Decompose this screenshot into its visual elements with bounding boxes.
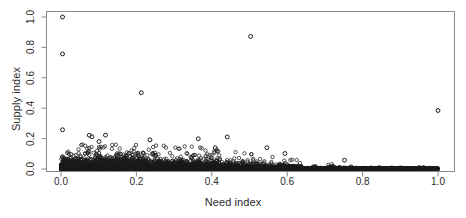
data-point xyxy=(147,148,150,151)
data-point xyxy=(436,109,440,113)
data-point xyxy=(61,52,65,56)
data-point xyxy=(225,135,229,139)
x-tick-label: 0.0 xyxy=(54,176,68,187)
data-point xyxy=(343,158,347,162)
y-tick-label: 0.0 xyxy=(25,162,36,176)
axes-layer xyxy=(42,12,455,177)
data-point xyxy=(77,148,80,151)
x-tick-label: 0.4 xyxy=(205,176,219,187)
data-point xyxy=(204,149,207,152)
data-point xyxy=(190,145,193,148)
data-point xyxy=(249,35,253,39)
x-tick-label: 1.0 xyxy=(431,176,445,187)
data-points-layer xyxy=(59,15,440,171)
y-tick-label: 1.0 xyxy=(25,10,36,24)
y-tick-label: 0.8 xyxy=(25,40,36,54)
y-tick-label: 0.4 xyxy=(25,101,36,115)
x-tick-label: 0.6 xyxy=(280,176,294,187)
data-point xyxy=(104,133,108,137)
data-point xyxy=(183,145,186,148)
data-point xyxy=(118,147,121,150)
x-tick-label: 0.8 xyxy=(356,176,370,187)
data-point xyxy=(234,150,237,153)
data-point xyxy=(148,138,152,142)
data-point xyxy=(295,158,298,161)
data-point xyxy=(61,15,65,19)
x-tick-label: 0.2 xyxy=(129,176,143,187)
data-point xyxy=(139,91,143,95)
data-point xyxy=(77,152,80,155)
data-point xyxy=(217,154,220,157)
y-axis-ticks xyxy=(42,17,47,169)
data-point xyxy=(283,152,287,156)
data-point xyxy=(61,128,65,132)
data-point xyxy=(133,146,136,149)
data-point xyxy=(114,143,117,146)
data-point xyxy=(168,151,171,154)
data-point xyxy=(258,157,261,160)
plot-canvas xyxy=(0,0,466,218)
data-point xyxy=(196,137,200,141)
plot-border xyxy=(47,12,455,172)
y-tick-label: 0.2 xyxy=(25,132,36,146)
data-point xyxy=(265,146,269,150)
x-axis-ticks xyxy=(61,172,438,177)
data-point xyxy=(237,156,240,159)
data-point xyxy=(110,147,113,150)
y-axis-label: Supply index xyxy=(10,49,22,149)
y-tick-label: 0.6 xyxy=(25,71,36,85)
scatter-plot-figure: Need index Supply index 0.00.20.40.60.81… xyxy=(0,0,466,218)
data-point xyxy=(243,152,246,155)
data-point xyxy=(151,145,154,148)
data-point xyxy=(111,143,114,146)
data-point xyxy=(271,155,274,158)
data-point xyxy=(97,140,101,144)
data-point xyxy=(171,155,174,158)
x-axis-label: Need index xyxy=(0,196,466,208)
